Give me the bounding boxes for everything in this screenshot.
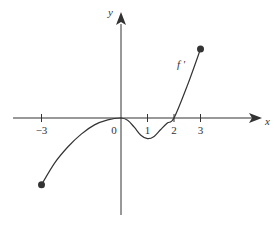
x-tick-label: 0: [111, 124, 117, 136]
right-endpoint-dot: [197, 46, 204, 53]
x-tick-label: 1: [145, 124, 151, 136]
x-tick-label: −3: [36, 124, 48, 136]
curve-label: f ': [177, 58, 186, 70]
derivative-graph: −30123xyf ': [0, 0, 275, 229]
left-endpoint-dot: [38, 181, 45, 188]
axes: [13, 12, 262, 215]
y-axis-label: y: [107, 6, 113, 18]
x-tick-label: 3: [198, 124, 204, 136]
y-axis-arrow-icon: [116, 12, 126, 25]
x-axis-label: x: [264, 115, 270, 127]
labels: −30123xyf ': [36, 6, 270, 136]
x-tick-label: 2: [171, 124, 177, 136]
